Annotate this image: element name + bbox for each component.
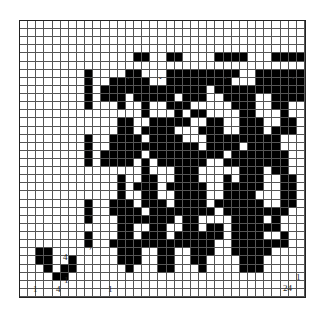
grid-cell [101,143,109,151]
grid-cell [215,110,223,118]
grid-cell [85,62,93,70]
grid-cell [272,281,280,289]
grid-cell [101,102,109,110]
grid-cell [240,135,248,143]
grid-cell [53,200,61,208]
grid-cell [207,45,215,53]
grid-cell [118,62,126,70]
grid-cell [77,240,85,248]
grid-cell [134,94,142,102]
grid-cell [167,70,175,78]
grid-cell [240,70,248,78]
grid-cell [126,208,134,216]
grid-cell [61,62,69,70]
grid-cell [110,21,118,29]
grid-cell [28,127,36,135]
grid-cell [142,53,150,61]
grid-cell [240,110,248,118]
grid-cell [199,224,207,232]
grid-cell [232,53,240,61]
grid-cell [289,232,297,240]
grid-cell [297,167,305,175]
grid-cell [224,94,232,102]
grid-cell [77,37,85,45]
grid-cell [158,53,166,61]
grid-cell [118,175,126,183]
grid-cell [224,183,232,191]
grid-cell [191,37,199,45]
grid-cell [183,102,191,110]
grid-cell [77,281,85,289]
grid-cell [256,265,264,273]
grid-cell [183,151,191,159]
grid-cell [289,256,297,264]
grid-cell [224,248,232,256]
grid-cell [183,248,191,256]
grid-cell [289,200,297,208]
grid-cell [297,232,305,240]
grid-cell [256,118,264,126]
grid-cell [167,102,175,110]
grid-cell [69,143,77,151]
grid-cell [248,110,256,118]
grid-cell [110,175,118,183]
grid-cell [183,70,191,78]
grid-cell [248,281,256,289]
grid-cell [289,94,297,102]
grid-cell [101,216,109,224]
grid-cell [77,135,85,143]
grid-cell [118,273,126,281]
grid-cell [36,45,44,53]
grid-cell [44,289,52,297]
grid-cell [53,127,61,135]
grid-cell [183,232,191,240]
grid-cell [232,216,240,224]
grid-cell [110,70,118,78]
grid-cell [20,127,28,135]
grid-cell [272,37,280,45]
grid-cell [215,159,223,167]
grid-cell [93,78,101,86]
grid-cell [232,159,240,167]
grid-cell [272,143,280,151]
grid-cell [101,224,109,232]
grid-cell [199,265,207,273]
grid-cell [53,248,61,256]
grid-cell [191,216,199,224]
label-4-bottom-left: 4 [56,285,61,294]
grid-cell [36,167,44,175]
grid-cell [281,62,289,70]
grid-cell [150,45,158,53]
grid-cell [272,240,280,248]
grid-cell [272,127,280,135]
grid-cell [272,151,280,159]
grid-cell [256,183,264,191]
grid-cell [272,208,280,216]
grid-cell [281,127,289,135]
grid-cell [232,240,240,248]
grid-cell [175,273,183,281]
grid-cell [272,29,280,37]
grid-cell [272,45,280,53]
grid-cell [199,29,207,37]
grid-cell [256,45,264,53]
grid-cell [232,62,240,70]
grid-cell [85,224,93,232]
grid-cell [264,200,272,208]
grid-cell [93,256,101,264]
grid-cell [224,159,232,167]
grid-cell [232,191,240,199]
grid-cell [248,208,256,216]
grid-cell [101,159,109,167]
grid-cell [289,127,297,135]
grid-cell [44,191,52,199]
grid-cell [232,175,240,183]
grid-cell [199,248,207,256]
grid-cell [150,183,158,191]
grid-cell [224,175,232,183]
grid-cell [44,143,52,151]
grid-cell [53,151,61,159]
grid-cell [142,289,150,297]
grid-cell [20,21,28,29]
label-1-side: 1 [64,276,69,285]
